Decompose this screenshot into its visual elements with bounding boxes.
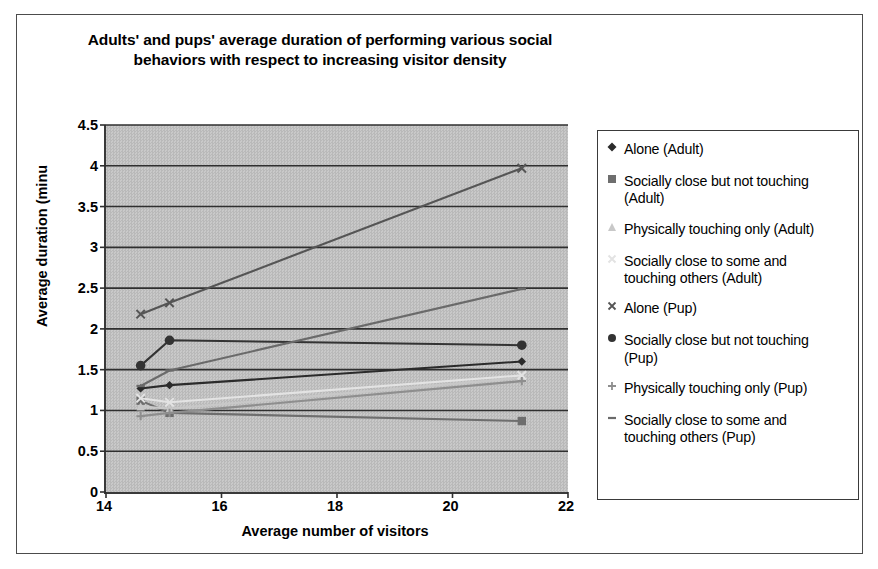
y-tick-label-1: 0.5	[46, 443, 98, 459]
chart-title-line-2: behaviors with respect to increasing vis…	[60, 50, 580, 70]
chart-legend: Alone (Adult)Socially close but not touc…	[597, 130, 859, 500]
y-tick-label-9: 4.5	[46, 117, 98, 133]
legend-item-label-3: Socially close to some and touching othe…	[624, 253, 787, 288]
legend-item-label-7: Socially close to some and touching othe…	[624, 412, 787, 447]
x-tick-label-3: 20	[442, 498, 458, 514]
series-marker-5-2	[517, 340, 527, 350]
legend-item-5[interactable]: Socially close but not touching (Pup)	[606, 332, 854, 367]
chart-title-line-1: Adults' and pups' average duration of pe…	[60, 30, 580, 50]
x-tick-label-1: 16	[211, 498, 227, 514]
legend-item-6[interactable]: Physically touching only (Pup)	[606, 380, 854, 399]
series-7	[136, 289, 526, 386]
legend-item-1[interactable]: Socially close but not touching (Adult)	[606, 173, 854, 208]
chart-screenshot: Adults' and pups' average duration of pe…	[0, 0, 878, 569]
series-3	[136, 371, 526, 406]
y-tick-label-8: 4	[46, 158, 98, 174]
legend-item-label-5: Socially close but not touching (Pup)	[624, 332, 809, 367]
legend-item-7[interactable]: Socially close to some and touching othe…	[606, 412, 854, 447]
x-axis-tick-labels: 1416182022	[104, 498, 566, 518]
square-icon	[606, 173, 624, 192]
series-0	[136, 357, 526, 392]
series-marker-0-1	[165, 381, 173, 389]
dash-icon	[606, 412, 624, 431]
legend-item-label-1: Socially close but not touching (Adult)	[624, 173, 809, 208]
x-tick-label-2: 18	[327, 498, 343, 514]
y-tick-label-6: 3	[46, 239, 98, 255]
y-axis-title: Average duration (minu	[34, 121, 50, 371]
legend-item-3[interactable]: Socially close to some and touching othe…	[606, 253, 854, 288]
series-marker-5-1	[165, 336, 175, 346]
y-tick-label-7: 3.5	[46, 199, 98, 215]
legend-item-label-6: Physically touching only (Pup)	[624, 380, 807, 397]
y-tick-label-0: 0	[46, 484, 98, 500]
x-axis-title: Average number of visitors	[104, 523, 566, 539]
x-icon	[606, 300, 624, 319]
series-marker-4-0	[136, 310, 144, 318]
y-tick-label-3: 1.5	[46, 362, 98, 378]
series-4	[136, 164, 526, 318]
triangle-icon	[606, 221, 624, 240]
y-tick-label-2: 1	[46, 402, 98, 418]
plus-icon	[606, 380, 624, 399]
series-line-0	[141, 362, 522, 389]
y-tick-label-5: 2.5	[46, 280, 98, 296]
series-line-4	[141, 168, 522, 314]
x-tick-label-4: 22	[558, 498, 574, 514]
legend-item-0[interactable]: Alone (Adult)	[606, 141, 854, 160]
chart-title: Adults' and pups' average duration of pe…	[60, 30, 580, 71]
series-marker-1-2	[518, 417, 526, 425]
series-line-7	[141, 289, 522, 386]
series-line-5	[141, 340, 522, 365]
cross-light-icon	[606, 253, 624, 272]
series-marker-6-0	[136, 412, 144, 420]
plot-area	[104, 125, 568, 494]
legend-item-label-4: Alone (Pup)	[624, 300, 697, 317]
series-marker-0-2	[518, 357, 526, 365]
legend-item-4[interactable]: Alone (Pup)	[606, 300, 854, 319]
series-marker-5-0	[136, 361, 146, 371]
y-tick-label-4: 2	[46, 321, 98, 337]
legend-item-2[interactable]: Physically touching only (Adult)	[606, 221, 854, 240]
diamond-icon	[606, 141, 624, 160]
plot-series-svg	[106, 125, 568, 492]
circle-icon	[606, 332, 624, 351]
x-tick-label-0: 14	[96, 498, 112, 514]
legend-item-label-0: Alone (Adult)	[624, 141, 703, 158]
legend-item-label-2: Physically touching only (Adult)	[624, 221, 814, 238]
